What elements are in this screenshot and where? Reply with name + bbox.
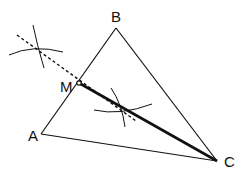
label-b: B	[111, 8, 121, 25]
label-m: M	[60, 78, 73, 95]
geometry-diagram: B A C M	[0, 0, 244, 177]
dashed-bisector-line	[17, 35, 136, 121]
segment-bc	[116, 28, 217, 161]
label-a: A	[28, 127, 38, 144]
point-m	[77, 81, 81, 85]
compass-arc-1b	[33, 25, 44, 68]
label-c: C	[224, 153, 235, 170]
